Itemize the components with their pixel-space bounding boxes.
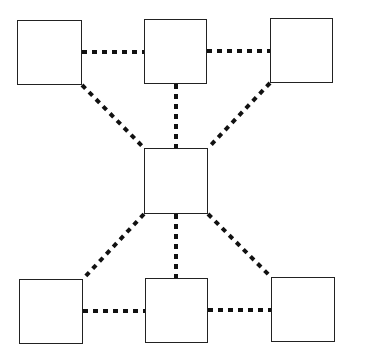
node-box-bottom-left [19,279,83,344]
edge-top-right-to-center [208,83,270,148]
node-box-center [144,148,208,214]
node-box-top-middle [144,19,207,84]
network-diagram [0,0,376,356]
node-box-bottom-right [271,277,335,342]
edge-center-to-bottom-left [83,214,144,279]
node-box-top-right [270,18,333,83]
edge-center-to-bottom-right [208,214,271,277]
node-box-top-left [17,20,82,85]
node-box-bottom-middle [145,278,208,343]
edge-top-left-to-center [82,85,144,148]
